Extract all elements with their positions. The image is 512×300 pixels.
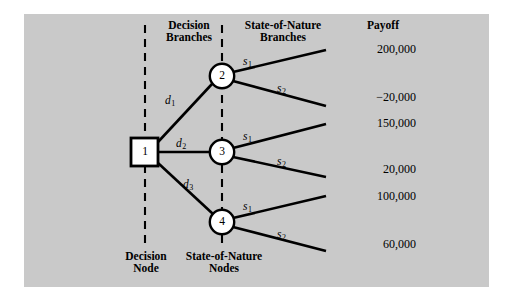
payoff-value-1: 200,000	[334, 43, 416, 56]
decision-tree-figure: Decision Branches State-of-Nature Branch…	[0, 0, 512, 300]
payoff-value-5: 100,000	[334, 190, 416, 203]
decision-branch-d1-sub: 1	[171, 99, 176, 108]
decision-branch-d2-base: d	[176, 137, 182, 149]
state-branch-s1-node2-label: s1	[243, 55, 252, 68]
payoff-value-3: 150,000	[334, 117, 416, 130]
payoff-value-4: 20,000	[334, 163, 416, 176]
footer-decision-node-line2: Node	[110, 262, 182, 274]
payoff-value-2: −20,000	[334, 91, 416, 104]
footer-decision-node: Decision Node	[110, 250, 182, 275]
decision-branch-d1-line	[158, 84, 212, 142]
state-node-3-label: 3	[210, 146, 234, 158]
decision-branch-d3-label: d3	[183, 178, 193, 191]
state-branch-s2-node4-label: s2	[277, 228, 286, 241]
state-branch-s1-node2-sub: 1	[247, 60, 252, 69]
state-branch-s2-node4-sub: 2	[281, 233, 286, 242]
state-branch-s2-node3-label: s2	[277, 155, 286, 168]
state-branch-s1-node3-sub: 1	[247, 135, 252, 144]
state-node-2-label: 2	[210, 70, 234, 82]
header-decision-branches-line2: Branches	[150, 31, 228, 43]
state-branch-s2-node2-label: s2	[277, 82, 286, 95]
footer-state-nodes-line1: State-of-Nature	[177, 250, 271, 262]
state-branch-s1-node3-label: s1	[243, 130, 252, 143]
decision-node-1-label: 1	[133, 146, 157, 158]
header-state-of-nature-branches: State-of-Nature Branches	[228, 19, 338, 44]
header-decision-branches: Decision Branches	[150, 19, 228, 44]
footer-decision-node-line1: Decision	[110, 250, 182, 262]
state-node-4-label: 4	[210, 216, 234, 228]
decision-branch-d2-label: d2	[176, 137, 186, 150]
footer-state-of-nature-nodes: State-of-Nature Nodes	[177, 250, 271, 275]
header-decision-branches-line1: Decision	[150, 19, 228, 31]
decision-branch-d1-label: d1	[165, 94, 175, 107]
header-payoff: Payoff	[348, 19, 418, 31]
decision-branch-d3-sub: 3	[189, 183, 194, 192]
decision-branch-d1-base: d	[165, 94, 171, 106]
state-branch-s2-node3-sub: 2	[281, 160, 286, 169]
header-state-branches-line2: Branches	[228, 31, 338, 43]
decision-branch-d2-sub: 2	[182, 142, 187, 151]
header-state-branches-line1: State-of-Nature	[228, 19, 338, 31]
state-branch-s2-node2-sub: 2	[281, 87, 286, 96]
state-branch-s1-node4-sub: 1	[247, 205, 252, 214]
decision-branch-d3-base: d	[183, 178, 189, 190]
state-branch-s1-node4-label: s1	[243, 200, 252, 213]
payoff-value-6: 60,000	[334, 238, 416, 251]
footer-state-nodes-line2: Nodes	[177, 262, 271, 274]
